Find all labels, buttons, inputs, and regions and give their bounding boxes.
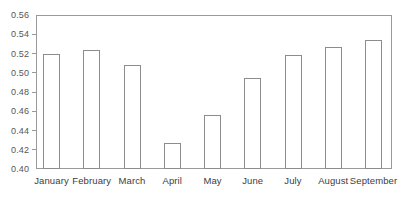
bar — [124, 65, 141, 169]
bar-series — [0, 0, 404, 198]
bar — [285, 55, 302, 169]
x-axis-category-labels: JanuaryFebruaryMarchAprilMayJuneJulyAugu… — [0, 174, 404, 190]
bar — [204, 115, 221, 169]
bar — [365, 40, 382, 169]
bar-chart: 0.400.420.440.460.480.500.520.540.56 Jan… — [0, 0, 404, 198]
bar — [244, 78, 261, 169]
x-axis-tick-label: September — [343, 174, 404, 187]
bar — [43, 54, 60, 169]
bar — [83, 50, 100, 169]
bar — [164, 143, 181, 169]
bar — [325, 47, 342, 169]
